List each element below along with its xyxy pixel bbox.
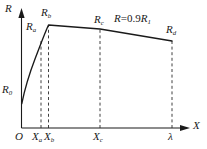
dashed-guides: [41, 25, 172, 128]
x-tick-label-xb: Xb: [44, 131, 54, 142]
x-axis-label: X: [193, 120, 200, 131]
curve-label-rc: Rc: [94, 14, 104, 25]
y-axis: [18, 8, 24, 128]
origin-label: O: [15, 131, 23, 142]
plot-figure: R X O R0 Ra Rb Rc Rd R=0.9R1 Xa Xb Xc λ: [0, 0, 207, 149]
x-tick-label-lambda: λ: [168, 131, 173, 142]
equation-annotation: R=0.9R1: [114, 13, 151, 24]
x-tick-label-xc: Xc: [93, 131, 103, 142]
curve-label-r0: R0: [2, 84, 12, 95]
curve-label-rb: Rb: [41, 7, 51, 18]
curve-label-rd: Rd: [166, 24, 176, 35]
curve-label-ra: Ra: [26, 21, 36, 32]
y-axis-label: R: [5, 3, 12, 14]
data-curve: [22, 25, 172, 104]
x-tick-label-xa: Xa: [32, 131, 42, 142]
